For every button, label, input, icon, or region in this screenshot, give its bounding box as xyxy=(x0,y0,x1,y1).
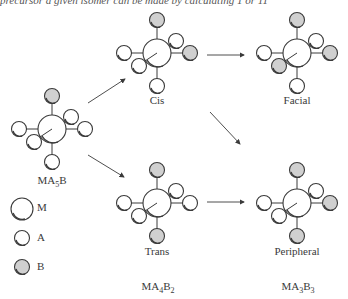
label-facial: Facial xyxy=(284,94,311,106)
legend-label-m: M xyxy=(37,201,47,213)
legend xyxy=(11,198,33,275)
reaction-arrows xyxy=(88,55,244,202)
legend-label-b: B xyxy=(37,260,44,272)
legend-atom-m-icon xyxy=(11,198,33,220)
molecule-cis xyxy=(117,13,198,94)
legend-atom-a-icon xyxy=(15,231,30,246)
molecule-ma5b xyxy=(12,89,93,170)
legend-atom-b-icon xyxy=(15,260,30,275)
formula-ma3b3: MA3B3 xyxy=(281,280,314,295)
label-cis: Cis xyxy=(150,94,165,106)
label-peripheral: Peripheral xyxy=(274,245,319,257)
formula-ma4b2: MA4B2 xyxy=(141,280,174,295)
molecule-trans xyxy=(117,163,198,244)
molecule-facial xyxy=(257,13,338,94)
molecule-peripheral xyxy=(257,163,338,244)
label-trans: Trans xyxy=(145,245,170,257)
legend-label-a: A xyxy=(37,231,45,243)
formula-ma5b: MA5B xyxy=(37,174,66,189)
